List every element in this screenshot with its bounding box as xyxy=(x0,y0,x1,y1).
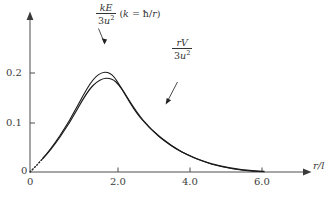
curve-rV-dotted-start xyxy=(30,159,43,172)
leader-rV-group xyxy=(166,82,178,105)
curve-kE-group xyxy=(30,72,264,172)
y-axis-arrowhead xyxy=(27,12,34,21)
annotation-curve-rV: rV 3u2 xyxy=(172,38,192,60)
y-tick-label-0-1: 0.1 xyxy=(6,118,22,128)
curve-rV-group xyxy=(30,78,264,172)
fraction-rV-denominator-exp: 2 xyxy=(186,49,190,57)
note-equals: = xyxy=(129,8,143,19)
x-tick-label-4: 4.0 xyxy=(182,177,198,187)
x-axis-arrowhead xyxy=(303,169,312,176)
fraction-kE-numerator: kE xyxy=(96,3,116,14)
hbar-symbol: ħ/ xyxy=(143,8,152,19)
curve-kE xyxy=(43,72,264,171)
leader-kE-group xyxy=(99,29,108,45)
chart-figure: 0.2 0.1 0 0 2.0 4.0 6.0 r/l kE 3u2 (k = … xyxy=(0,0,330,197)
x-tick-label-0: 0 xyxy=(27,177,33,187)
leader-arrowhead-rV xyxy=(166,98,172,105)
y-tick-label-0: 0 xyxy=(21,166,27,176)
fraction-kE: kE 3u2 xyxy=(96,3,116,25)
y-tick-label-0-2: 0.2 xyxy=(6,68,22,78)
plot-canvas xyxy=(0,0,330,197)
fraction-kE-denominator-exp: 2 xyxy=(110,14,114,22)
fraction-rV-numerator: rV xyxy=(172,38,192,49)
fraction-kE-denominator: 3u2 xyxy=(96,14,116,25)
y-tick-marks xyxy=(30,73,35,123)
annotation-curve-kE: kE 3u2 (k = ħ/r) xyxy=(96,3,160,25)
fraction-rV: rV 3u2 xyxy=(172,38,192,60)
annotation-kE-note: (k = ħ/r) xyxy=(116,9,160,19)
note-close-paren: ) xyxy=(157,8,161,19)
x-tick-label-6: 6.0 xyxy=(254,177,270,187)
x-axis-label: r/l xyxy=(313,161,324,171)
fraction-rV-denominator: 3u2 xyxy=(172,49,192,60)
leader-arrowhead-kE xyxy=(102,38,107,44)
x-tick-label-2: 2.0 xyxy=(110,177,126,187)
curve-rV xyxy=(43,78,264,172)
axis-group xyxy=(27,12,312,176)
